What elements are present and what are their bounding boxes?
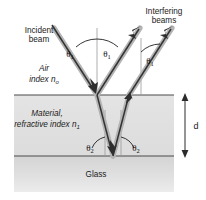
diagram-canvas: θ1 θ1 θ1 θ2 θ2 Incident beam Interfering… [0, 0, 206, 200]
incident-beam-label-line2: beam [29, 35, 50, 44]
dimension-arrow-down-icon [182, 150, 189, 158]
thickness-dimension [182, 93, 189, 158]
thickness-label: d [193, 121, 198, 131]
incident-beam-label-line1: Incident [25, 26, 54, 35]
air-label-line1: Air [38, 64, 49, 73]
material-label-line2: refractive index n1 [14, 120, 80, 130]
interfering-beams-label-line1: Interfering [146, 7, 183, 16]
thin-film-interference-diagram: θ1 θ1 θ1 θ2 θ2 Incident beam Interfering… [0, 0, 206, 200]
material-label-line1: Material, [31, 109, 62, 118]
air-label-line2: index no [29, 75, 59, 85]
glass-label: Glass [86, 170, 107, 179]
interfering-beams-label-line2: beams [152, 16, 177, 25]
